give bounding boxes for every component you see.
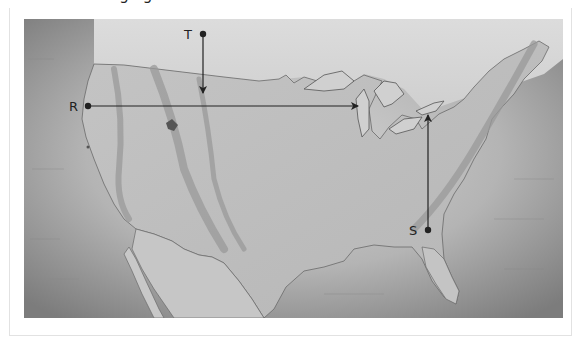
cropped-heading-text: ag ag — [110, 0, 152, 4]
small-lake — [87, 146, 90, 149]
point-t-dot — [200, 31, 206, 37]
point-s-dot — [425, 227, 431, 233]
point-t-label: T — [183, 27, 192, 42]
us-map: T R S — [24, 19, 563, 318]
point-r-label: R — [69, 99, 78, 114]
point-s-label: S — [409, 223, 417, 238]
point-r-dot — [85, 103, 91, 109]
